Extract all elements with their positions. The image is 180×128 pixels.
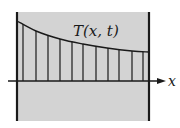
x-axis-label: x — [168, 73, 176, 89]
slab-diagram: T(x, t) x — [0, 0, 180, 128]
x-axis-arrowhead-icon — [157, 78, 166, 84]
temperature-label: T(x, t) — [73, 22, 119, 40]
